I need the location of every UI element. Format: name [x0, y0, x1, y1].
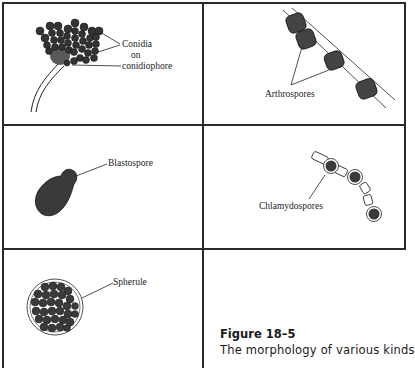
- label-arthrospores: Arthrospores: [265, 89, 315, 99]
- figure-caption: Figure 18–5 The morphology of various ki…: [220, 326, 415, 358]
- label-conidia: Conidia: [122, 39, 153, 49]
- arthrospores-panel: Arthrospores: [265, 8, 395, 108]
- caption-text: The morphology of various kinds: [220, 342, 415, 358]
- chlamydospores-panel: Chlamydospores: [259, 151, 382, 222]
- label-on: on: [131, 50, 141, 60]
- label-spherule: Spherule: [113, 277, 147, 287]
- label-blastospore: Blastospore: [108, 158, 153, 168]
- blastospore-panel: Blastospore: [35, 158, 152, 216]
- caption-title: Figure 18–5: [220, 326, 415, 342]
- spherule-panel: Spherule: [27, 277, 147, 335]
- label-conidiophore: conidiophore: [122, 61, 172, 71]
- conidia-panel: Conidia on conidiophore: [31, 19, 172, 112]
- label-chlamydospores: Chlamydospores: [259, 201, 323, 211]
